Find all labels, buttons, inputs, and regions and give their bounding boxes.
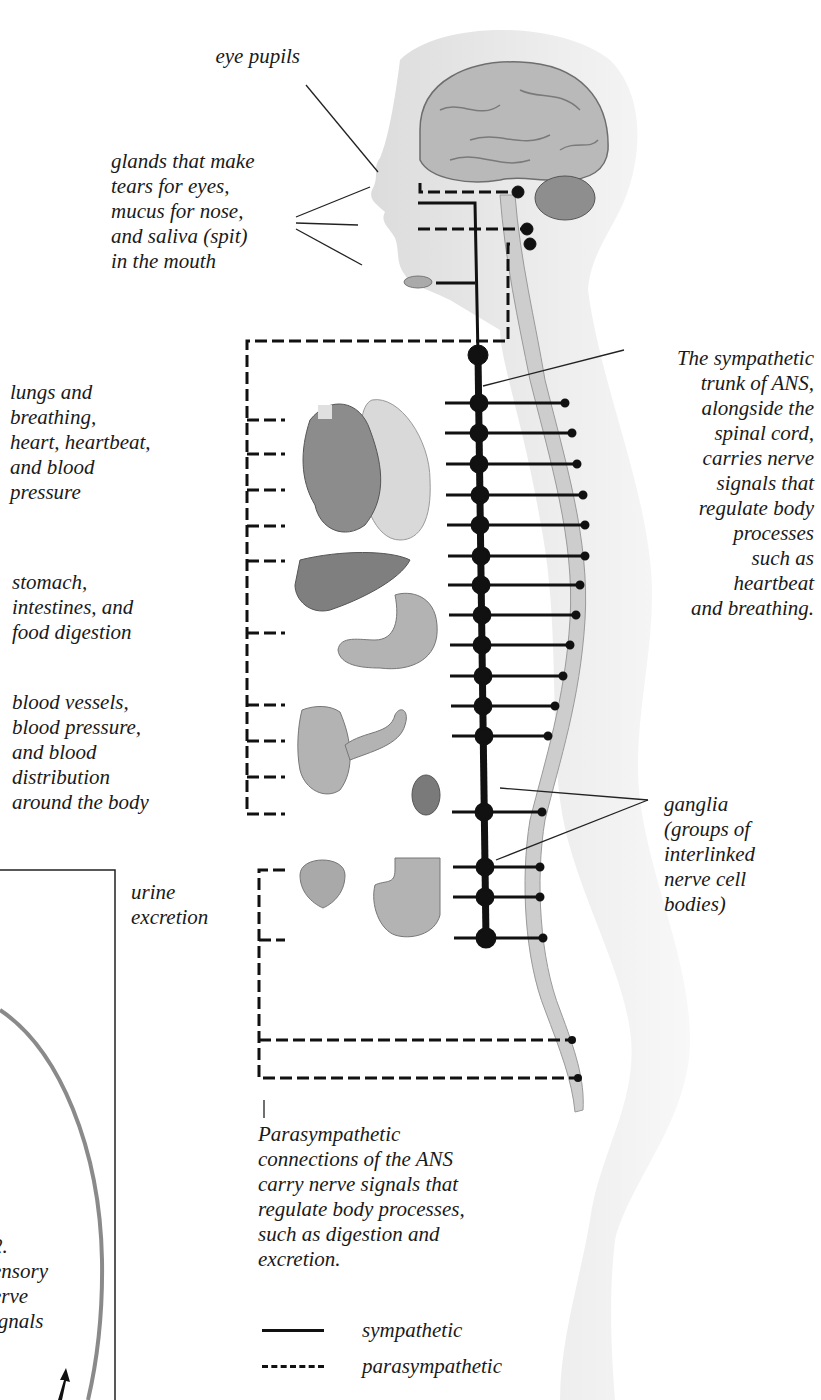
label-digestion: stomach, intestines, and food digestion [12, 570, 133, 645]
liver-illustration [295, 553, 410, 611]
label-blood-vessels: blood vessels, blood pressure, and blood… [12, 690, 149, 815]
label-lungs-heart: lungs and breathing, heart, heartbeat, a… [10, 380, 151, 505]
stomach-illustration [338, 593, 437, 668]
legend-item-sympathetic: sympathetic [262, 1318, 462, 1343]
bladder-illustration [300, 860, 345, 908]
pancreas-illustration [345, 710, 406, 760]
salivary-gland-illustration [404, 276, 432, 288]
rectum-illustration [374, 858, 440, 937]
label-eye-pupils: eye pupils [150, 44, 300, 69]
cerebellum-illustration [535, 176, 595, 220]
label-side-panel: 2. ensory erve ignals [0, 1234, 48, 1334]
large-intestine-illustration [298, 706, 350, 793]
label-parasympathetic: Parasympathetic connections of the ANS c… [258, 1122, 465, 1272]
dashed-line-swatch [262, 1365, 324, 1368]
label-ganglia: ganglia (groups of interlinked nerve cel… [664, 792, 755, 917]
legend-item-parasympathetic: parasympathetic [262, 1354, 502, 1379]
heart-lung-illustration [303, 400, 430, 540]
kidney-illustration [412, 775, 440, 815]
legend-label: sympathetic [362, 1318, 462, 1343]
label-glands: glands that make tears for eyes, mucus f… [111, 149, 254, 274]
solid-line-swatch [262, 1329, 324, 1332]
arrow-up-icon [58, 1368, 70, 1400]
label-urine: urine excretion [131, 880, 208, 930]
label-sympathetic-trunk: The sympathetic trunk of ANS, alongside … [600, 346, 814, 621]
legend-label: parasympathetic [362, 1354, 502, 1379]
